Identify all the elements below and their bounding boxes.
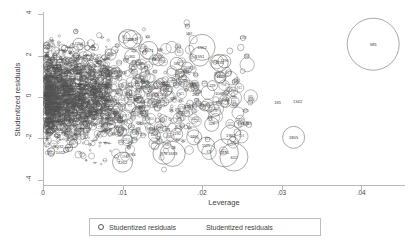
bubble-marker [170,105,173,108]
bubble-label: 1602 [78,127,84,130]
bubble-label: 1347 [152,102,159,106]
bubble-label: 1575 [143,105,150,109]
bubble-label: 392 [83,137,88,140]
bubble-label: 1223 [184,104,194,109]
bubble-label: 674 [176,79,181,83]
bubble-marker [85,45,90,50]
bubble-label: 1919 [143,118,150,122]
bubble-label: 1088 [126,85,133,89]
bubble-label: 1012 [56,150,66,155]
bubble-marker [84,140,89,145]
bubble-label: 341 [164,88,169,92]
bubble-label: 1442 [77,83,83,86]
bubble-label: 858 [244,54,249,58]
bubble-label: 327 [113,125,118,129]
bubble-label: 876 [160,151,168,156]
bubble-marker [105,46,107,48]
bubble-label: 216 [239,134,244,138]
bubble-label: 239 [209,84,215,88]
bubble-marker [114,155,118,159]
bubble-label: 863 [68,75,73,78]
bubble-label: 1190 [173,132,181,136]
plot-area: 4491664143139821516661504495118694215326… [43,8,405,186]
legend-entry-marker[interactable]: Studentized residuals [98,224,176,231]
bubble-marker [107,39,110,42]
bubble-label: 1342 [293,99,303,104]
bubble-label: 956 [221,83,226,87]
bubble-marker [227,48,233,54]
bubble-label: 184 [44,103,49,106]
bubble-label: 1225 [120,128,127,132]
bubble-label: 489 [57,41,62,44]
bubble-marker [58,35,60,37]
bubble-label: 1120 [44,44,50,47]
bubble-label: 789 [199,104,204,108]
bubble-label: 1238 [46,121,52,124]
bubble-label: 450 [180,124,185,128]
bubble-label: 340 [119,104,124,108]
bubble-marker [82,142,84,144]
bubble-marker [74,29,79,34]
bubble-label: 842 [53,66,58,69]
x-tick-label: .03 [271,189,293,196]
bubble-marker [88,153,94,159]
bubble-label: 1057 [231,103,238,107]
bubble-label: 1032 [54,144,64,149]
bubble-label: 1210 [78,130,84,133]
bubble-label: 1487 [107,53,115,57]
bubble-label: 1644 [52,54,58,57]
bubble-label: 1030 [248,98,255,102]
bubble-marker [71,142,73,144]
bubble-label: 399 [47,84,52,87]
y-tick-label: -2 [25,128,32,146]
bubble-marker [112,149,121,158]
bubble-label: 1283 [239,36,246,40]
bubble-label: 1459 [186,32,193,36]
bubble-label: 281 [57,58,62,61]
bubble-label: 804 [47,95,52,98]
bubble-label: 1045 [215,91,225,96]
bubble-label: 1042 [80,68,86,71]
bubble-label: 868 [246,122,251,126]
bubble-label: 291 [132,71,137,75]
bubble-label: 1389 [44,65,50,68]
bubble-label: 1839 [237,118,244,122]
bubble-label: 1945 [91,118,97,121]
bubble-label: 592 [93,161,98,164]
bubble-label: 504 [107,113,112,116]
bubble-label: 1497 [184,111,191,115]
bubble-label: 1011 [58,106,64,109]
bubble-marker [164,71,167,74]
bubble-label: 1306 [103,141,109,144]
bubble-label: 1251 [193,119,200,123]
bubble-label: 368 [140,79,145,83]
bubble-label: 867 [153,70,158,74]
bubble-label: 119 [51,124,56,127]
legend: Studentized residuals Studentized residu… [89,218,321,236]
bubble-label: 365 [129,55,135,59]
legend-entry-text[interactable]: Studentized residuals [206,224,273,231]
bubble-label: 1282 [127,37,137,42]
bubble-label: 267 [103,159,108,162]
bubble-label: 1260 [220,97,230,102]
bubble-label: 1254 [75,42,83,46]
bubble-label: 487 [165,128,170,132]
bubble-label: 474 [121,98,126,102]
bubble-label: 344 [103,58,108,61]
bubble-label: 1551 [195,54,205,59]
bubble-label: 1539 [77,98,83,101]
bubble-label: 1465 [216,75,224,79]
bubble-marker [240,57,254,71]
bubble-label: 573 [136,127,141,131]
bubble-label: 1696 [190,135,198,139]
x-axis-title: Leverage [43,198,405,207]
x-tick-label: .04 [350,189,372,196]
x-tick-label: .02 [191,189,213,196]
bubble-marker [99,145,101,147]
bubble-marker [45,146,47,148]
bubble-label: 826 [193,73,198,77]
bubble-label: 1434 [138,122,145,126]
bubble-label: 1633 [63,85,69,88]
bubble-label: 1089 [123,58,130,62]
bubble-label: 583 [68,93,73,96]
